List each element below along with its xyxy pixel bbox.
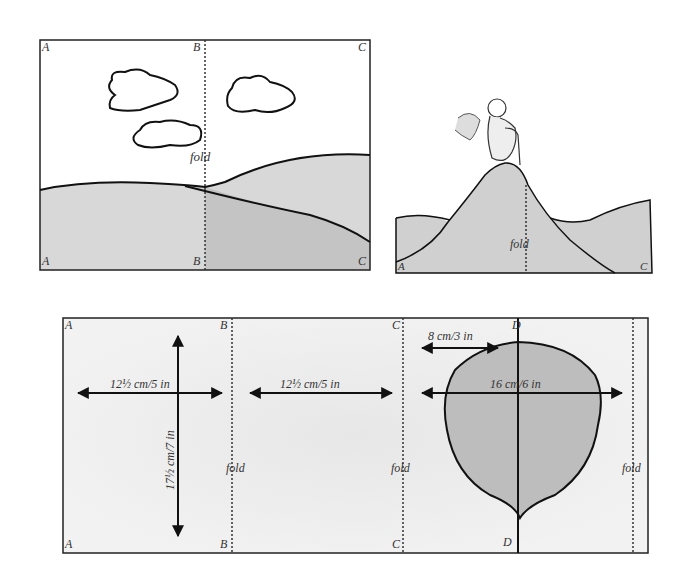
panel-template: 12½ cm/5 in 12½ cm/5 in 8 cm/3 in 16 cm/… [63, 318, 648, 553]
corner-b-bottom: B [193, 254, 201, 268]
cupid-icon [455, 99, 520, 165]
dim-width-2: 12½ cm/5 in [280, 377, 340, 391]
corner-c: C [640, 260, 648, 272]
panel-landscape: A B C A B C fold [40, 40, 370, 270]
corner-b-top: B [220, 318, 228, 332]
panel-mountain: A C fold [396, 99, 652, 273]
cloud-icon [227, 76, 295, 112]
dim-height: 17½ cm/7 in [163, 430, 177, 490]
corner-b-bottom: B [220, 537, 228, 551]
corner-c-top: C [392, 318, 401, 332]
corner-a-top: A [64, 318, 73, 332]
corner-a-bottom: A [41, 254, 50, 268]
corner-c-top: C [358, 40, 367, 54]
fold-label: fold [510, 237, 530, 251]
fold-label: fold [190, 149, 211, 164]
dim-half-balloon: 8 cm/3 in [428, 329, 473, 343]
dim-balloon: 16 cm/6 in [490, 377, 541, 391]
corner-a-bottom: A [64, 537, 73, 551]
corner-c-bottom: C [392, 537, 401, 551]
corner-d-top: D [511, 318, 521, 332]
cloud-icon [133, 121, 201, 148]
corner-c-bottom: C [358, 254, 367, 268]
dim-width-1: 12½ cm/5 in [110, 377, 170, 391]
cloud-icon [109, 70, 177, 111]
fold-label-3: fold [622, 461, 642, 475]
diagram-canvas: A B C A B C fold A C fold [0, 0, 686, 585]
fold-label-1: fold [226, 461, 246, 475]
fold-label-2: fold [391, 461, 411, 475]
corner-a: A [397, 260, 405, 272]
corner-d-bottom: D [502, 535, 512, 549]
corner-b-top: B [193, 40, 201, 54]
corner-a-top: A [41, 40, 50, 54]
